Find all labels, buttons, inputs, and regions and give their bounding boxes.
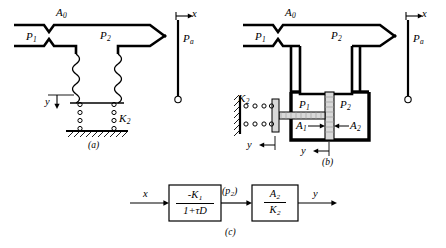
label-input-x-c: x	[143, 189, 148, 200]
a1-arrow-head-b	[320, 123, 325, 128]
label-x-a: x	[192, 9, 197, 20]
bellows-left-a	[73, 54, 80, 103]
spring-k2-a	[78, 102, 116, 130]
upper-wall-a	[14, 25, 166, 37]
y-arrow-head-left-b	[259, 142, 264, 147]
panel-caption-b: (b)	[322, 158, 333, 168]
label-y-piston-b: y	[301, 146, 306, 157]
label-a2-b: A2	[350, 120, 361, 132]
label-y-left-b: y	[247, 140, 252, 151]
label-p2-inner-b: P2	[340, 99, 351, 111]
a2-arrow-head-b	[334, 123, 339, 128]
flapper-pivot-b	[405, 96, 411, 102]
label-p2-outer-b: P2	[331, 30, 342, 42]
lower-wall-b-left	[243, 39, 300, 46]
label-k2-a: K2	[119, 113, 130, 125]
lower-wall-a-right	[118, 35, 166, 54]
label-y-a: y	[45, 97, 50, 108]
ground-hatch-a	[68, 132, 127, 137]
panel-caption-c: (c)	[225, 228, 236, 238]
flapper-pivot-a	[175, 96, 181, 102]
label-pa-b: Pa	[413, 33, 424, 45]
label-p1-a: P1	[26, 31, 37, 43]
bellows-right-a	[115, 54, 122, 103]
y-arrow-head-a	[54, 104, 59, 109]
upper-wall-b	[243, 25, 396, 37]
label-k2-b: K2	[238, 93, 249, 105]
y-arrow-head-piston-b	[313, 148, 318, 153]
label-x-b: x	[422, 9, 427, 20]
label-p2-intermediate-c: (p2)	[222, 186, 237, 197]
label-a0-a: A0	[56, 7, 67, 19]
lower-wall-a-left	[14, 39, 76, 54]
label-a0-b: A0	[285, 7, 296, 19]
block-2-content-c: A2 K2	[252, 185, 298, 221]
block-2-denominator-c: K2	[270, 203, 281, 217]
piston-b	[325, 92, 334, 140]
label-a1-b: A1	[296, 120, 307, 132]
spring-k2-b	[244, 104, 274, 126]
label-p1-inner-b: P1	[299, 99, 310, 111]
panel-a-drawing	[0, 0, 446, 248]
lower-wall-b-right	[352, 35, 396, 46]
block-1-denominator-c: 1+τD	[183, 204, 207, 217]
label-pa-a: Pa	[183, 33, 194, 45]
block-1-numerator-c: -K1	[188, 190, 202, 203]
label-p1-outer-b: P1	[255, 31, 266, 43]
block-2-numerator-c: A2	[270, 189, 280, 202]
panel-caption-a: (a)	[88, 141, 99, 151]
block-1-content-c: -K1 1+τD	[169, 185, 221, 221]
label-output-y-c: y	[313, 189, 318, 200]
label-p2-a: P2	[100, 30, 111, 42]
figure-pneumatic-amplifier: A0 P1 P2 Pa x y K2 (a) A0 P1 P2 Pa x K2 …	[0, 0, 446, 248]
output-arrow-head-c	[331, 200, 337, 206]
inner-chamber-b	[300, 46, 352, 94]
